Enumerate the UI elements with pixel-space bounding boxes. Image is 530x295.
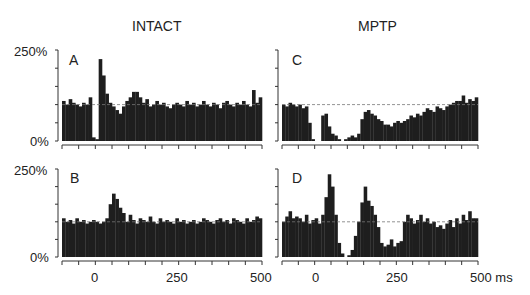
histogram-bar xyxy=(354,137,358,141)
histogram-bar xyxy=(72,103,76,141)
histogram-bar xyxy=(373,215,377,257)
histogram-bar xyxy=(122,213,126,257)
histogram-bar xyxy=(344,139,348,141)
histogram-bar xyxy=(102,222,106,257)
histogram-bar xyxy=(159,105,163,141)
histogram-bar xyxy=(135,224,139,257)
histogram-bar xyxy=(409,116,413,141)
histogram-bar xyxy=(69,220,73,257)
histogram-bar xyxy=(338,243,342,257)
histogram-bar xyxy=(436,106,440,141)
histogram-bar xyxy=(311,220,315,257)
figure: INTACT MPTP 250% 0% 250% 0% A B C D 0 25… xyxy=(0,0,530,295)
histogram-bar xyxy=(182,106,186,141)
histogram-bar xyxy=(202,218,206,257)
histogram-bar xyxy=(387,125,391,141)
histogram-bar xyxy=(189,105,193,141)
histogram-bar xyxy=(235,220,239,257)
histogram-bar xyxy=(383,246,387,257)
histogram-bar xyxy=(318,224,322,257)
histogram-bar xyxy=(311,139,315,141)
histogram-plots xyxy=(0,0,530,295)
histogram-bar xyxy=(115,199,119,257)
histogram-bar xyxy=(455,101,459,141)
histogram-bar xyxy=(195,106,199,141)
histogram-bar xyxy=(292,218,296,257)
histogram-bar xyxy=(72,224,76,257)
histogram-bar xyxy=(403,222,407,257)
histogram-bar xyxy=(215,220,219,257)
histogram-bar xyxy=(305,106,309,141)
histogram-bar xyxy=(125,222,129,257)
histogram-bar xyxy=(282,222,286,257)
histogram-bar xyxy=(102,75,106,141)
histogram-bar xyxy=(298,218,302,257)
histogram-bar xyxy=(165,106,169,141)
histogram-bar xyxy=(351,250,355,257)
histogram-bar xyxy=(65,222,69,257)
histogram-bar xyxy=(129,97,133,141)
histogram-bar xyxy=(105,218,109,257)
histogram-bar xyxy=(82,220,86,257)
histogram-bar xyxy=(449,105,453,141)
histogram-bar xyxy=(229,105,233,141)
histogram-bar xyxy=(185,224,189,257)
histogram-bar xyxy=(328,126,332,141)
histogram-bar xyxy=(162,103,166,141)
histogram-bar xyxy=(373,116,377,141)
histogram-bar xyxy=(145,222,149,257)
histogram-bar xyxy=(92,220,96,257)
panel-d xyxy=(275,169,478,265)
histogram-bar xyxy=(135,92,139,141)
histogram-bar xyxy=(259,218,263,257)
histogram-bar xyxy=(232,106,236,141)
histogram-bar xyxy=(315,218,319,257)
histogram-bar xyxy=(255,103,259,141)
histogram-bar xyxy=(85,224,89,257)
histogram-bar xyxy=(65,105,69,141)
histogram-bar xyxy=(192,220,196,257)
histogram-bar xyxy=(79,222,83,257)
histogram-bar xyxy=(380,121,384,141)
histogram-bar xyxy=(334,136,338,141)
histogram-bar xyxy=(383,125,387,141)
histogram-bar xyxy=(75,105,79,141)
histogram-bar xyxy=(321,116,325,141)
histogram-bar xyxy=(125,101,129,141)
histogram-bar xyxy=(172,224,176,257)
histogram-bar xyxy=(298,105,302,141)
histogram-bar xyxy=(465,220,469,257)
histogram-bar xyxy=(155,101,159,141)
histogram-bar xyxy=(219,218,223,257)
histogram-bar xyxy=(209,222,213,257)
histogram-bar xyxy=(75,218,79,257)
histogram-bar xyxy=(139,97,143,141)
histogram-bar xyxy=(192,103,196,141)
histogram-bar xyxy=(432,222,436,257)
histogram-bar xyxy=(432,112,436,141)
histogram-bar xyxy=(179,222,183,257)
histogram-bar xyxy=(419,215,423,257)
histogram-bar xyxy=(390,126,394,141)
histogram-bar xyxy=(62,218,66,257)
histogram-bar xyxy=(109,204,113,257)
histogram-bar xyxy=(445,106,449,141)
histogram-bar xyxy=(95,222,99,257)
histogram-bar xyxy=(85,105,89,141)
histogram-bar xyxy=(149,106,153,141)
histogram-bar xyxy=(295,106,299,141)
histogram-bar xyxy=(252,220,256,257)
histogram-bar xyxy=(370,114,374,141)
histogram-bar xyxy=(199,105,203,141)
histogram-bar xyxy=(471,101,475,141)
histogram-bar xyxy=(182,220,186,257)
histogram-bar xyxy=(82,103,86,141)
histogram-bar xyxy=(422,112,426,141)
histogram-bar xyxy=(289,103,293,141)
histogram-bar xyxy=(235,103,239,141)
histogram-bar xyxy=(219,108,223,141)
histogram-bar xyxy=(195,224,199,257)
histogram-bar xyxy=(239,222,243,257)
histogram-bar xyxy=(259,97,263,141)
histogram-bar xyxy=(471,218,475,257)
